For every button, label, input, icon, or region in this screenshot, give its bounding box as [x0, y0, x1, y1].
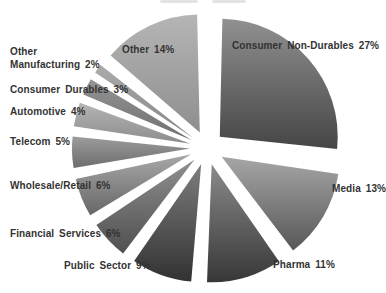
slice-label-public-sector: Public Sector 9%: [64, 260, 151, 273]
slice-label-text: Manufacturing 2%: [10, 59, 100, 72]
slice-label-text: Media 13%: [332, 183, 386, 196]
slice-label-text: Consumer Durables 3%: [10, 84, 128, 97]
slice-label-pharma: Pharma 11%: [273, 259, 335, 272]
slice-label-telecom: Telecom 5%: [10, 136, 70, 149]
slice-label-media: Media 13%: [332, 183, 386, 196]
slice-label-text: Other: [10, 46, 100, 59]
slice-label-other-manufacturing: OtherManufacturing 2%: [10, 46, 100, 71]
slice-label-text: Financial Services 6%: [10, 228, 121, 241]
slice-label-text: Public Sector 9%: [64, 260, 151, 273]
slice-label-financial-services: Financial Services 6%: [10, 228, 121, 241]
slice-label-consumer-durables: Consumer Durables 3%: [10, 84, 128, 97]
slice-label-text: Automotive 4%: [10, 106, 86, 119]
pie-slice-other: [111, 15, 200, 133]
slice-label-text: Wholesale/Retail 6%: [10, 180, 111, 193]
slice-label-text: Other 14%: [122, 44, 174, 57]
pie-slices: [72, 15, 338, 283]
pie-slice-consumer-non-durables: [220, 19, 338, 149]
slice-label-text: Telecom 5%: [10, 136, 70, 149]
slice-label-other: Other 14%: [122, 44, 174, 57]
slice-label-automotive: Automotive 4%: [10, 106, 86, 119]
slice-label-text: Pharma 11%: [273, 259, 335, 272]
slice-label-wholesale-retail: Wholesale/Retail 6%: [10, 180, 111, 193]
slice-label-consumer-non-durables: Consumer Non-Durables 27%: [232, 40, 379, 53]
slice-label-text: Consumer Non-Durables 27%: [232, 40, 379, 53]
